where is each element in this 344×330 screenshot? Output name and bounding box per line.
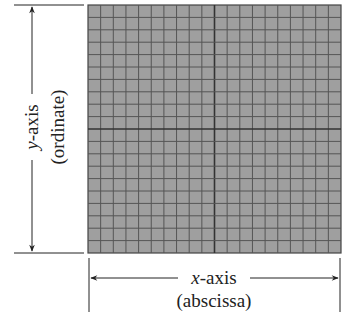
graph-paper-grid: [88, 5, 341, 253]
y-axis-dimension: y-axis (ordinate): [14, 5, 84, 253]
y-axis-label: y-axis: [21, 104, 42, 151]
y-axis-suffix: -axis: [21, 104, 42, 141]
x-axis-suffix: -axis: [200, 267, 237, 288]
y-axis-alias: (ordinate): [47, 90, 69, 165]
grid-lines: [88, 5, 341, 253]
x-axis-alias: (abscissa): [177, 290, 252, 312]
x-axis-label: x-axis: [190, 267, 236, 288]
x-axis-dimension: x-axis (abscissa): [89, 258, 340, 312]
coordinate-grid-diagram: y-axis (ordinate) x-axis (abscissa): [0, 0, 344, 330]
y-axis-variable: y: [21, 141, 42, 152]
